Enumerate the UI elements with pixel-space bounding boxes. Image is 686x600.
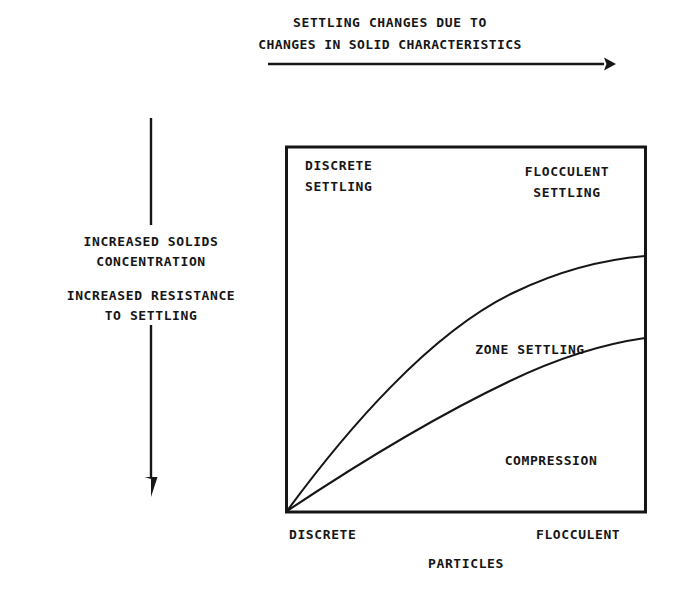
lower-boundary-curve	[287, 338, 645, 511]
diagram-vector-overlay	[0, 0, 686, 600]
figure-canvas: SETTLING CHANGES DUE TO CHANGES IN SOLID…	[0, 0, 686, 600]
plot-frame	[287, 147, 646, 512]
upper-boundary-curve	[287, 256, 645, 511]
vertical-arrow	[145, 118, 158, 497]
horizontal-arrow	[268, 58, 616, 71]
